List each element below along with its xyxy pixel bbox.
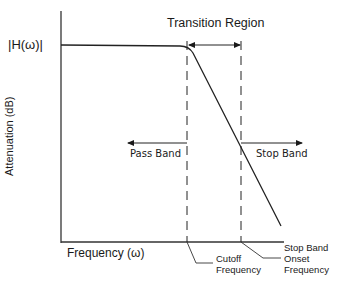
cutoff-frequency-label: Cutoff Frequency	[216, 254, 261, 276]
response-curve	[61, 45, 281, 226]
stop-band-onset-label: Stop Band Onset Frequency	[284, 243, 329, 276]
y-axis-label: Attenuation (dB)	[4, 97, 15, 177]
transition-region-label: Transition Region	[167, 17, 265, 30]
x-axis-label: Frequency (ω)	[67, 247, 144, 259]
magnitude-label: |H(ω)|	[8, 38, 43, 51]
onset-label-line3: Frequency	[284, 265, 329, 276]
stop-band-label: Stop Band	[256, 149, 308, 159]
cutoff-label-line2: Frequency	[216, 265, 261, 276]
pass-band-label: Pass Band	[130, 149, 181, 159]
cutoff-leader-line	[187, 242, 213, 263]
